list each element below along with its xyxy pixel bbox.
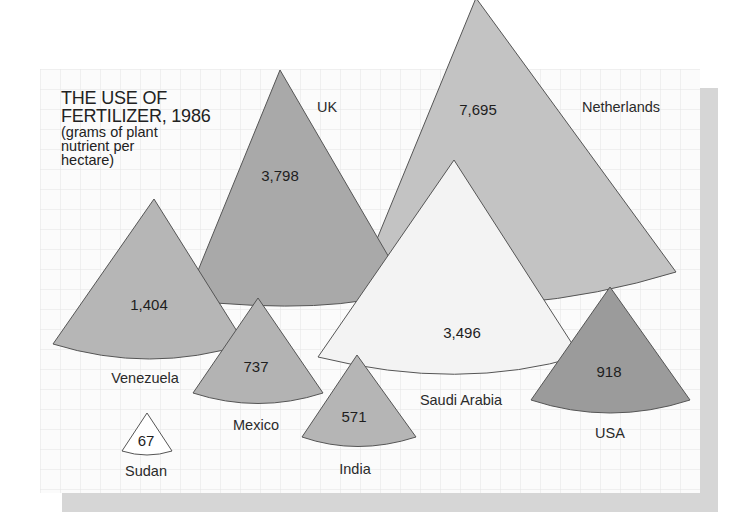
chart-title: THE USE OF FERTILIZER, 1986 <box>61 89 211 125</box>
title-line-2: FERTILIZER, 1986 <box>61 107 211 125</box>
label-india: India <box>339 462 370 477</box>
value-mexico: 737 <box>243 359 268 374</box>
label-usa: USA <box>595 426 625 441</box>
label-mexico: Mexico <box>233 418 279 433</box>
label-venezuela: Venezuela <box>111 371 179 386</box>
value-india: 571 <box>341 409 366 424</box>
panel-shadow-bottom <box>62 493 718 512</box>
subtitle-line-2: nutrient per <box>61 139 201 153</box>
value-usa: 918 <box>596 364 621 379</box>
subtitle-line-1: (grams of plant <box>61 125 201 139</box>
value-venezuela: 1,404 <box>130 297 168 312</box>
value-netherlands: 7,695 <box>459 102 497 117</box>
value-uk: 3,798 <box>261 168 299 183</box>
title-line-1: THE USE OF <box>61 89 211 107</box>
fertilizer-cone-chart <box>0 0 753 531</box>
panel-shadow-right <box>700 88 718 512</box>
label-saudi-arabia: Saudi Arabia <box>420 393 502 408</box>
subtitle-line-3: hectare) <box>61 153 201 167</box>
value-sudan: 67 <box>138 433 155 448</box>
label-uk: UK <box>317 100 337 115</box>
value-saudi-arabia: 3,496 <box>443 325 481 340</box>
label-netherlands: Netherlands <box>582 100 660 115</box>
chart-subtitle: (grams of plant nutrient per hectare) <box>61 125 201 167</box>
label-sudan: Sudan <box>125 464 167 479</box>
